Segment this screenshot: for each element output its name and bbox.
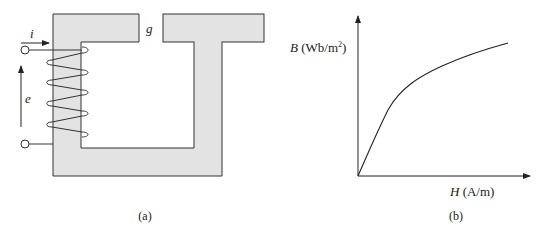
caption-b: (b) <box>449 209 463 223</box>
magnetic-core-diagram: i e g (a) <box>21 14 264 223</box>
x-axis-label-var: H <box>449 184 460 199</box>
x-axis-label: H (A/m) <box>449 184 494 199</box>
y-axis-label-close: ) <box>342 40 346 55</box>
terminal-bottom <box>21 140 29 148</box>
terminal-top <box>21 46 29 54</box>
y-axis-label: B (Wb/m2) <box>290 40 346 55</box>
emf-label: e <box>25 91 31 106</box>
current-label: i <box>30 26 34 41</box>
figure-canvas: i e g (a) B (Wb/m2) H (A/m) (b) <box>0 0 548 237</box>
gap-label: g <box>146 21 153 36</box>
x-axis-label-unit: (A/m) <box>459 184 494 199</box>
core-right-top-bar <box>163 14 264 42</box>
y-axis-label-var: B <box>290 40 298 55</box>
bh-curve-line <box>358 43 508 176</box>
bh-curve-chart: B (Wb/m2) H (A/m) (b) <box>290 16 530 223</box>
y-axis-label-unit: (Wb/m <box>298 40 338 55</box>
caption-a: (a) <box>138 209 151 223</box>
